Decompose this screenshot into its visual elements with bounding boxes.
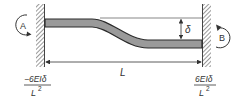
right-fixed-support [203,4,212,67]
moment-a-label: A [20,21,26,31]
left-reaction-fraction: −6EIδ L 2 [24,74,51,98]
length-label: L [120,67,126,78]
right-reaction-fraction: 6EIδ L 2 [194,74,216,98]
right-reaction-exponent: 2 [206,85,210,92]
left-fixed-support [36,4,45,67]
deflected-beam [45,19,202,48]
right-reaction-denominator: L [199,88,204,98]
right-reaction-numerator: 6EIδ [195,74,213,84]
left-reaction-denominator: L [31,88,36,98]
left-reaction-exponent: 2 [38,85,42,92]
delta-label: δ [185,24,191,35]
beam-diagram: δ L A B −6EIδ L 2 6EIδ L 2 [0,0,246,100]
left-reaction-numerator: −6EIδ [24,74,47,84]
moment-b-label: B [219,33,225,43]
